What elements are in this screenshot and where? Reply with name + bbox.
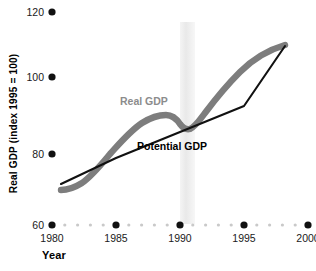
xtick-label-2000: 2000 (290, 232, 316, 244)
x-axis-tick-dots (48, 221, 311, 228)
potential-gdp-annotation: Potential GDP (137, 140, 191, 152)
xtick-label-1985: 1985 (98, 232, 134, 244)
y-axis-title: Real GDP (index 1995 = 100) (8, 49, 19, 199)
plot-area (0, 0, 316, 271)
ytick-label-120: 120 (18, 6, 44, 18)
ytick-label-100: 100 (18, 71, 44, 83)
x-axis-title: Year (42, 249, 66, 261)
ytick-label-80: 80 (18, 148, 44, 160)
real-gdp-annotation: Real GDP (120, 95, 168, 107)
xtick-label-1990: 1990 (162, 232, 198, 244)
ytick-label-60: 60 (18, 219, 44, 231)
gdp-chart: 120 100 80 60 1980 1985 1990 1995 2000 R… (0, 0, 316, 271)
xtick-label-1980: 1980 (34, 232, 70, 244)
xtick-label-1995: 1995 (226, 232, 262, 244)
y-axis-tick-dots (48, 8, 55, 157)
potential-gdp-annotation-text: Potential GDP (137, 140, 191, 152)
